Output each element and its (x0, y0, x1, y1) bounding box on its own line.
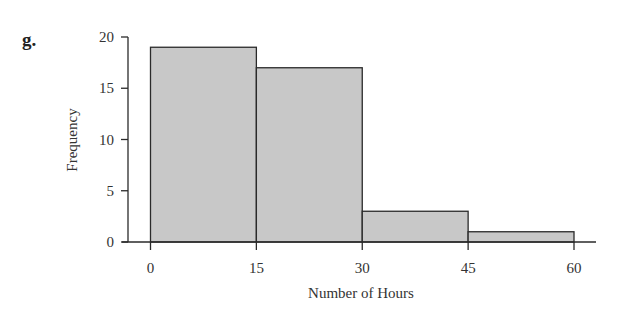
y-tick-label: 10 (99, 132, 114, 148)
y-tick-label: 15 (99, 80, 114, 96)
x-tick-label: 30 (355, 260, 370, 276)
histogram-chart: g. 05101520 015304560 Number of Hours Fr… (0, 0, 627, 310)
y-ticks: 05101520 (99, 29, 128, 250)
x-ticks: 015304560 (147, 242, 582, 276)
x-tick-label: 0 (147, 260, 155, 276)
x-axis-title: Number of Hours (308, 285, 414, 301)
bars-group (151, 47, 575, 242)
histogram-bar (362, 211, 468, 242)
histogram-bar (151, 47, 257, 242)
panel-label: g. (22, 29, 36, 50)
histogram-bar (468, 232, 574, 242)
x-tick-label: 45 (461, 260, 476, 276)
histogram-bar (256, 68, 362, 242)
y-axis-title: Frequency (64, 108, 80, 172)
y-tick-label: 20 (99, 29, 114, 45)
x-tick-label: 60 (567, 260, 582, 276)
y-tick-label: 0 (107, 234, 115, 250)
y-tick-label: 5 (107, 183, 115, 199)
x-tick-label: 15 (249, 260, 264, 276)
